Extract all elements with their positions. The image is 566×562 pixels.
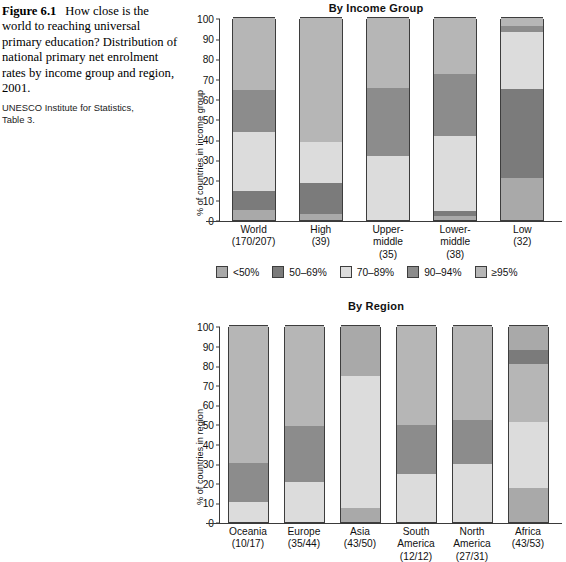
bar-segment [501,178,543,220]
y-tick-label: 10 [192,498,220,509]
bar-segment [434,73,476,137]
legend-label: 70–89% [357,267,394,278]
x-axis-category-name: Africa [515,526,541,537]
bar-column [232,19,276,221]
bar-column [500,19,544,221]
x-axis-label: SouthAmerica(12/12) [388,526,444,562]
bar-segment [300,214,342,220]
x-axis-label: Africa(43/53) [500,526,556,551]
stacked-bar[interactable] [228,327,269,523]
legend-item: 70–89% [340,266,394,278]
bar-segment [341,508,380,522]
y-tick-label: 10 [192,195,220,206]
bar-segment [434,135,476,211]
bar-segment [509,421,548,488]
caption-text: Figure 6.1How close is the world to reac… [2,4,178,96]
stacked-bar[interactable] [433,19,477,221]
bar-segment [509,488,548,522]
x-axis-category-count: (32) [489,236,556,248]
y-tick-label: 20 [192,478,220,489]
x-axis-category-count: (27/31) [444,551,500,562]
x-axis-category-name: Oceania [229,526,267,537]
stacked-bar[interactable] [508,327,549,523]
bars-income-group [220,19,556,221]
bar-column [433,19,477,221]
stacked-bar[interactable] [299,19,343,221]
y-tick-label: 80 [192,361,220,372]
y-tick-label: 50 [192,420,220,431]
bar-segment [341,430,380,508]
stacked-bar[interactable] [340,327,381,523]
legend-swatch-icon [475,266,487,278]
x-axis-category-name: Asia [350,526,370,537]
bar-segment [453,325,492,420]
x-axis-category-count: (10/17) [220,538,276,550]
chart-title-region: By Region [186,300,566,312]
y-tick-label: 70 [192,380,220,391]
stacked-bar[interactable] [284,327,325,523]
x-axis-category-name: High [310,224,331,235]
x-axis-label: Asia(43/50) [332,526,388,551]
bar-segment [434,216,476,220]
x-axis-category-count: (12/12) [388,551,444,562]
bar-segment [341,325,380,376]
stacked-bar[interactable] [366,19,410,221]
x-axis-category-count: (170/207) [220,236,287,248]
stacked-bar[interactable] [396,327,437,523]
y-tick-label: 100 [192,14,220,25]
y-tick-label: 70 [192,74,220,85]
y-tick-label: 60 [192,400,220,411]
stacked-bar[interactable] [232,19,276,221]
bar-segment [233,131,275,191]
bar-column [284,327,325,523]
bar-segment [300,141,342,182]
bar-segment [509,349,548,365]
legend-item: 50–69% [272,266,326,278]
bar-segment [229,462,268,502]
stacked-bar[interactable] [500,19,544,221]
bar-segment [501,25,543,32]
bar-segment [233,89,275,132]
plot-area-income-group: 0102030405060708090100 [220,19,556,221]
x-axis-category-name: SouthAmerica [397,526,434,549]
legend-item: 90–94% [407,266,461,278]
x-axis-category-name: Upper-middle [372,224,403,247]
x-axis-label: World(170/207) [220,224,287,249]
bar-segment [229,325,268,463]
x-axis-label: Oceania(10/17) [220,526,276,551]
x-axis-category-name: NorthAmerica [453,526,490,549]
bar-segment [300,182,342,214]
chart-by-income-group: By Income Group % of countries in income… [186,2,566,262]
x-axis-label: Upper-middle(35) [354,224,421,261]
legend-item: <50% [216,266,259,278]
bar-segment [285,482,324,522]
bar-column [452,327,493,523]
x-axis-label: Europe(35/44) [276,526,332,551]
legend-swatch-icon [216,266,228,278]
caption-source: UNESCO Institute for Statistics, Table 3… [2,102,178,125]
caption-source-line1: UNESCO Institute for Statistics, [2,102,178,114]
y-tick-label: 90 [192,341,220,352]
y-tick-label: 60 [192,94,220,105]
caption-source-line2: Table 3. [2,114,178,126]
bar-column [396,327,437,523]
figure-number: Figure 6.1 [2,4,56,18]
y-tick-label: 40 [192,135,220,146]
y-tick-label: 90 [192,34,220,45]
bar-segment [233,190,275,210]
bar-column [228,327,269,523]
bar-segment [229,502,268,522]
stacked-bar[interactable] [452,327,493,523]
bar-segment [397,424,436,474]
x-axis-category-count: (43/50) [332,538,388,550]
plot-area-region: 0102030405060708090100 [220,327,556,523]
bar-segment [367,156,409,220]
bar-segment [453,419,492,464]
x-axis-category-name: World [240,224,266,235]
bar-column [340,327,381,523]
legend-swatch-icon [272,266,284,278]
bar-segment [397,474,436,522]
x-axis-category-count: (43/53) [500,538,556,550]
x-axis-category-count: (35) [354,249,421,261]
x-axis-label: High(39) [287,224,354,249]
